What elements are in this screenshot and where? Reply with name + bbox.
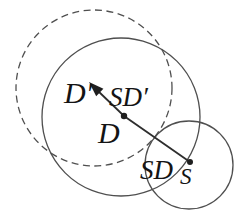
geometry-diagram: D′ SD′ D SD S	[0, 0, 239, 220]
label-sd: SD	[140, 155, 174, 185]
label-s: S	[180, 164, 192, 189]
figure-container: D′ SD′ D SD S	[0, 0, 239, 220]
label-d-prime: D′	[63, 76, 93, 109]
point-d-dot	[121, 113, 127, 119]
label-d: D	[97, 116, 120, 149]
label-sd-prime: SD′	[109, 82, 149, 112]
